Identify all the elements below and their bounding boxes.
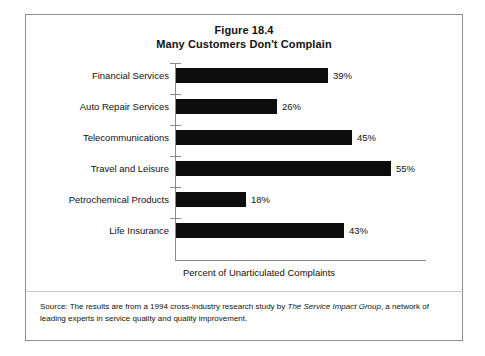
bar-fill	[176, 130, 352, 145]
bar-track: 26%	[176, 99, 464, 114]
bar-chart-plot-area: Financial Services 39% Auto Repair Servi…	[26, 63, 464, 261]
bar-track: 39%	[176, 68, 464, 83]
bar-category-label: Telecommunications	[26, 131, 169, 145]
bar-track: 55%	[176, 161, 464, 176]
bar-category-label: Financial Services	[26, 69, 169, 83]
bar-fill	[176, 192, 246, 207]
bar-category-label: Auto Repair Services	[26, 100, 169, 114]
source-note-prefix: Source: The results are from a 1994 cros…	[40, 302, 288, 311]
x-axis-label-text: Percent of Unarticulated Complaints	[183, 267, 335, 278]
bar-row: Travel and Leisure 55%	[26, 161, 464, 192]
figure-title: Figure 18.4 Many Customers Don't Complai…	[26, 23, 462, 51]
bar-value-label: 45%	[357, 131, 376, 145]
bar-value-label: 43%	[349, 224, 368, 238]
x-axis-line	[175, 260, 426, 261]
bar-track: 45%	[176, 130, 464, 145]
bar-value-label: 55%	[396, 162, 415, 176]
bar-row: Financial Services 39%	[26, 68, 464, 99]
figure-title-line-1: Figure 18.4	[26, 23, 462, 37]
bar-row: Petrochemical Products 18%	[26, 192, 464, 223]
bar-fill	[176, 161, 391, 176]
source-note: Source: The results are from a 1994 cros…	[40, 301, 452, 324]
bar-category-label: Petrochemical Products	[26, 193, 169, 207]
figure-frame: Figure 18.4 Many Customers Don't Complai…	[25, 14, 463, 341]
bar-value-label: 18%	[251, 193, 270, 207]
bar-row: Telecommunications 45%	[26, 130, 464, 161]
source-divider	[26, 291, 464, 292]
bar-value-label: 26%	[282, 100, 301, 114]
bar-fill	[176, 99, 277, 114]
x-axis-label: Percent of Unarticulated Complaints	[26, 267, 464, 278]
bar-row: Auto Repair Services 26%	[26, 99, 464, 130]
bar-track: 43%	[176, 223, 464, 238]
bar-fill	[176, 68, 328, 83]
bar-row: Life Insurance 43%	[26, 223, 464, 254]
bar-category-label: Life Insurance	[26, 224, 169, 238]
bar-value-label: 39%	[333, 69, 352, 83]
bar-fill	[176, 223, 344, 238]
y-axis-tick	[170, 63, 181, 64]
bar-track: 18%	[176, 192, 464, 207]
bar-category-label: Travel and Leisure	[26, 162, 169, 176]
source-note-publisher: The Service Impact Group	[288, 302, 381, 311]
figure-title-line-2: Many Customers Don't Complain	[26, 37, 462, 51]
